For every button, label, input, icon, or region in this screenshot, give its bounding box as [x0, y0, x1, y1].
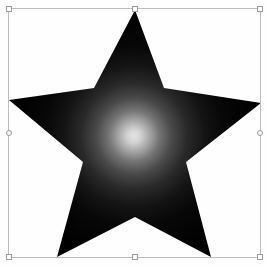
star-graphic[interactable] [0, 0, 268, 266]
artboard[interactable] [0, 0, 268, 266]
canvas-root [0, 0, 268, 266]
star-path[interactable] [9, 10, 261, 257]
